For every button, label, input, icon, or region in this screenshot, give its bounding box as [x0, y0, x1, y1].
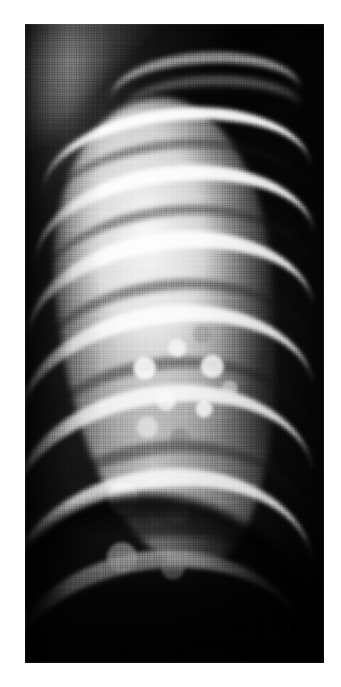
apex-shadow — [25, 24, 324, 663]
radiograph-film — [25, 24, 324, 663]
radiograph-figure — [0, 0, 341, 687]
